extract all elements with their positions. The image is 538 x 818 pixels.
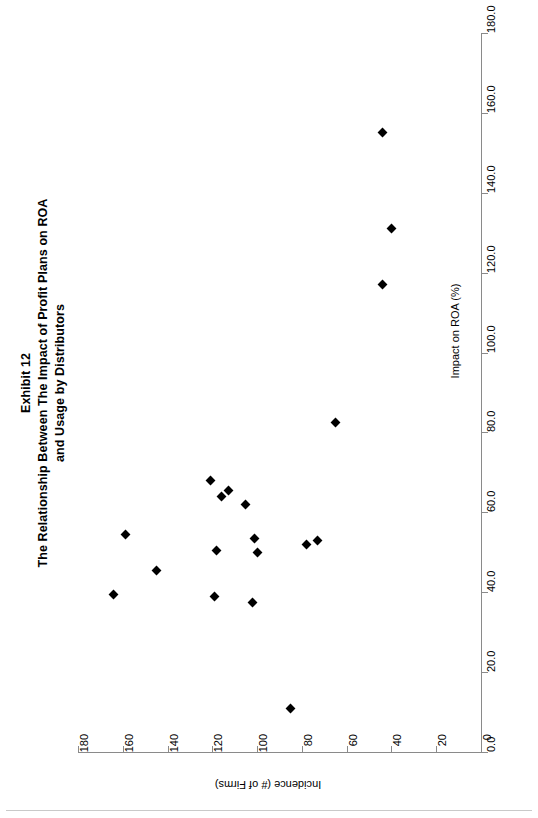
chart-page: Exhibit 12 The Relationship Between The … — [0, 0, 538, 818]
incidence-tick-label: 60 — [347, 734, 359, 780]
data-point — [301, 539, 311, 549]
impact-tick-label: 100.0 — [485, 299, 499, 353]
data-point — [378, 280, 388, 290]
data-point — [205, 475, 215, 485]
data-point — [386, 224, 396, 234]
impact-tick-label: 80.0 — [485, 378, 499, 432]
data-point — [216, 491, 226, 501]
impact-tick — [481, 672, 488, 673]
impact-tick-label: 40.0 — [485, 538, 499, 592]
page-bottom-rule — [6, 810, 532, 811]
impact-tick-label: 0.0 — [485, 698, 499, 752]
incidence-tick-label: 20 — [436, 734, 448, 780]
incidence-tick-label: 100 — [257, 734, 269, 780]
impact-tick — [481, 33, 488, 34]
scatter-plot-area: Incidence (# of Firms) Impact on ROA (%)… — [0, 0, 538, 818]
impact-tick-label: 140.0 — [485, 139, 499, 193]
impact-tick-label: 60.0 — [485, 458, 499, 512]
incidence-axis-line — [78, 752, 481, 753]
impact-tick-label: 160.0 — [485, 59, 499, 113]
impact-tick-label: 120.0 — [485, 219, 499, 273]
data-point — [286, 703, 296, 713]
impact-tick — [481, 592, 488, 593]
data-point — [151, 565, 161, 575]
incidence-tick-label: 80 — [302, 734, 314, 780]
impact-axis-line — [481, 33, 482, 752]
data-point — [241, 499, 251, 509]
impact-tick-label: 20.0 — [485, 618, 499, 672]
data-point — [252, 547, 262, 557]
impact-tick — [481, 512, 488, 513]
data-point — [250, 533, 260, 543]
incidence-tick-label: 180 — [78, 734, 90, 780]
data-point — [248, 597, 258, 607]
data-point — [109, 589, 119, 599]
data-point — [120, 529, 130, 539]
data-point — [331, 418, 341, 428]
incidence-axis-title: Incidence (# of Firms) — [178, 779, 358, 791]
impact-tick — [481, 113, 488, 114]
incidence-tick-label: 140 — [168, 734, 180, 780]
data-point — [313, 535, 323, 545]
impact-tick — [481, 752, 488, 753]
incidence-tick-label: 160 — [123, 734, 135, 780]
impact-axis-title: Impact on ROA (%) — [449, 261, 461, 401]
impact-tick — [481, 432, 488, 433]
impact-tick-label: 180.0 — [485, 0, 499, 33]
incidence-tick-label: 40 — [391, 734, 403, 780]
incidence-tick-label: 120 — [212, 734, 224, 780]
data-point — [210, 591, 220, 601]
data-point — [212, 545, 222, 555]
data-point — [378, 128, 388, 138]
